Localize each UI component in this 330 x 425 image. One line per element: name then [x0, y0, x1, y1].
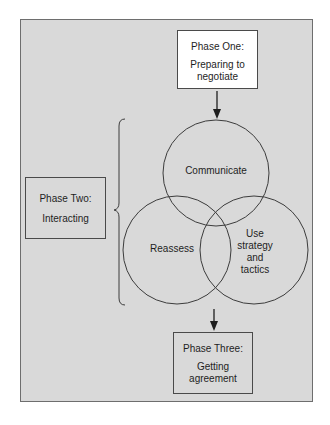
circle-label-communicate: Communicate	[176, 165, 256, 177]
arrowhead-icon	[210, 321, 218, 331]
phase-one-description: Preparing to negotiate	[178, 59, 257, 83]
brace-icon	[114, 119, 125, 305]
phase-one-box: Phase One: Preparing to negotiate	[177, 30, 258, 89]
phase-one-title: Phase One:	[178, 41, 257, 53]
circle-label-strategy: Use strategy and tactics	[233, 228, 277, 276]
phase-two-description: Interacting	[26, 213, 105, 225]
phase-two-title: Phase Two:	[26, 193, 105, 205]
phase-three-box: Phase Three: Getting agreement	[173, 332, 253, 394]
phase-three-title: Phase Three:	[174, 343, 252, 355]
arrowhead-icon	[213, 109, 221, 119]
circle-label-reassess: Reassess	[142, 243, 202, 255]
phase-two-box: Phase Two: Interacting	[25, 177, 106, 239]
phase-three-description: Getting agreement	[174, 361, 252, 385]
